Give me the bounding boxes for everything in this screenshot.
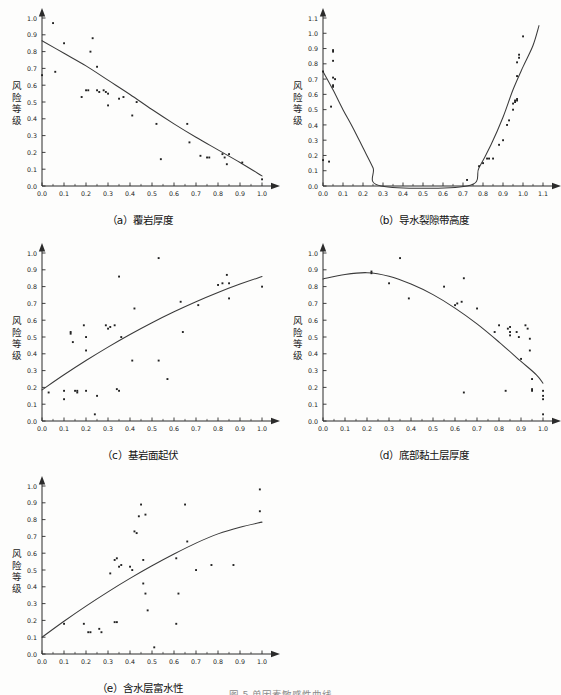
svg-text:1.0: 1.0: [27, 15, 37, 22]
scatter-plot-c: 0.00.10.20.30.40.50.60.70.80.91.00.00.10…: [0, 235, 280, 447]
svg-text:0.2: 0.2: [362, 425, 372, 432]
svg-text:0.3: 0.3: [308, 367, 318, 374]
svg-text:0.7: 0.7: [27, 533, 37, 540]
svg-text:0.2: 0.2: [308, 384, 318, 391]
svg-text:0.7: 0.7: [191, 190, 201, 197]
svg-text:0.4: 0.4: [27, 115, 37, 122]
svg-text:0.1: 0.1: [59, 658, 69, 665]
svg-text:0.7: 0.7: [191, 658, 201, 665]
svg-text:0.1: 0.1: [59, 425, 69, 432]
svg-text:0.4: 0.4: [308, 350, 318, 357]
svg-text:0.0: 0.0: [37, 658, 47, 665]
svg-text:0.5: 0.5: [147, 658, 157, 665]
svg-text:0.4: 0.4: [398, 190, 408, 197]
svg-text:0.9: 0.9: [235, 425, 245, 432]
chart-panel-c: 风 险 等 级 0.00.10.20.30.40.50.60.70.80.91.…: [0, 235, 280, 470]
svg-text:1.0: 1.0: [257, 658, 267, 665]
svg-text:0.1: 0.1: [27, 166, 37, 173]
svg-text:0.7: 0.7: [472, 425, 482, 432]
svg-text:0.3: 0.3: [27, 367, 37, 374]
svg-text:0.4: 0.4: [308, 122, 318, 129]
svg-text:0.9: 0.9: [235, 658, 245, 665]
svg-text:0.8: 0.8: [213, 658, 223, 665]
svg-text:0.6: 0.6: [27, 82, 37, 89]
svg-text:0.5: 0.5: [428, 425, 438, 432]
svg-text:0.5: 0.5: [147, 425, 157, 432]
svg-text:0.6: 0.6: [308, 317, 318, 324]
svg-text:0.4: 0.4: [27, 583, 37, 590]
scatter-plot-a: 0.00.10.20.30.40.50.60.70.80.91.00.00.10…: [0, 0, 280, 212]
svg-text:0.8: 0.8: [213, 190, 223, 197]
scatter-plot-e: 0.00.10.20.30.40.50.60.70.80.91.00.00.10…: [0, 468, 280, 680]
svg-text:1.0: 1.0: [257, 425, 267, 432]
svg-text:0.5: 0.5: [147, 190, 157, 197]
svg-text:0.0: 0.0: [37, 190, 47, 197]
svg-text:0.8: 0.8: [308, 283, 318, 290]
svg-text:0.2: 0.2: [27, 617, 37, 624]
svg-text:0.7: 0.7: [191, 425, 201, 432]
svg-text:0.9: 0.9: [498, 190, 508, 197]
svg-text:1.1: 1.1: [538, 190, 548, 197]
svg-text:1.1: 1.1: [308, 15, 318, 22]
panel-caption-b: （b）导水裂隙带高度: [281, 212, 561, 227]
svg-text:0.0: 0.0: [318, 425, 328, 432]
svg-text:0.6: 0.6: [169, 425, 179, 432]
svg-text:0.8: 0.8: [213, 425, 223, 432]
svg-text:0.1: 0.1: [340, 425, 350, 432]
chart-panel-a: 风 险 等 级 0.00.10.20.30.40.50.60.70.80.91.…: [0, 0, 280, 235]
svg-text:1.0: 1.0: [27, 250, 37, 257]
svg-text:0.0: 0.0: [318, 190, 328, 197]
svg-text:0.3: 0.3: [27, 600, 37, 607]
svg-text:0.8: 0.8: [27, 48, 37, 55]
svg-text:0.5: 0.5: [418, 190, 428, 197]
svg-text:0.8: 0.8: [308, 60, 318, 67]
chart-panel-d: 风 险 等 级 0.00.10.20.30.40.50.60.70.80.91.…: [281, 235, 561, 470]
svg-text:0.8: 0.8: [27, 516, 37, 523]
plot-area-b: 0.00.10.20.30.40.50.60.70.80.91.01.10.00…: [281, 0, 561, 212]
plot-area-e: 0.00.10.20.30.40.50.60.70.80.91.00.00.10…: [0, 468, 280, 680]
svg-text:1.0: 1.0: [257, 190, 267, 197]
plot-area-a: 0.00.10.20.30.40.50.60.70.80.91.00.00.10…: [0, 0, 280, 212]
svg-text:0.4: 0.4: [27, 350, 37, 357]
svg-text:1.0: 1.0: [538, 425, 548, 432]
svg-text:0.1: 0.1: [308, 167, 318, 174]
svg-text:0.4: 0.4: [125, 425, 135, 432]
svg-text:0.3: 0.3: [384, 425, 394, 432]
svg-text:0.2: 0.2: [81, 658, 91, 665]
svg-text:0.0: 0.0: [308, 418, 318, 425]
svg-text:0.8: 0.8: [27, 283, 37, 290]
chart-panel-b: 风 险 等 级 0.00.10.20.30.40.50.60.70.80.91.…: [281, 0, 561, 235]
svg-text:0.7: 0.7: [308, 300, 318, 307]
svg-text:0.9: 0.9: [308, 266, 318, 273]
figure-bottom-caption: 图 5 单因素敏感性曲线: [0, 688, 561, 695]
svg-text:0.6: 0.6: [27, 317, 37, 324]
svg-text:0.3: 0.3: [103, 425, 113, 432]
svg-text:0.3: 0.3: [308, 137, 318, 144]
svg-text:0.9: 0.9: [516, 425, 526, 432]
svg-text:0.3: 0.3: [27, 132, 37, 139]
figure-sheet: 风 险 等 级 0.00.10.20.30.40.50.60.70.80.91.…: [0, 0, 561, 695]
plot-area-d: 0.00.10.20.30.40.50.60.70.80.91.00.00.10…: [281, 235, 561, 447]
svg-text:0.6: 0.6: [169, 658, 179, 665]
svg-text:0.6: 0.6: [450, 425, 460, 432]
svg-text:0.6: 0.6: [308, 91, 318, 98]
svg-text:0.3: 0.3: [103, 658, 113, 665]
scatter-plot-b: 0.00.10.20.30.40.50.60.70.80.91.01.10.00…: [281, 0, 561, 212]
svg-text:0.5: 0.5: [308, 106, 318, 113]
svg-text:1.0: 1.0: [308, 250, 318, 257]
svg-text:0.4: 0.4: [125, 658, 135, 665]
svg-text:0.0: 0.0: [308, 183, 318, 190]
svg-text:1.0: 1.0: [518, 190, 528, 197]
svg-text:0.4: 0.4: [406, 425, 416, 432]
svg-text:0.2: 0.2: [81, 425, 91, 432]
svg-text:0.1: 0.1: [308, 401, 318, 408]
svg-text:0.6: 0.6: [27, 550, 37, 557]
svg-text:0.0: 0.0: [37, 425, 47, 432]
svg-text:0.3: 0.3: [103, 190, 113, 197]
svg-text:0.3: 0.3: [378, 190, 388, 197]
svg-text:0.1: 0.1: [27, 401, 37, 408]
svg-text:0.8: 0.8: [494, 425, 504, 432]
chart-panel-e: 风 险 等 级 0.00.10.20.30.40.50.60.70.80.91.…: [0, 468, 280, 695]
svg-text:0.1: 0.1: [338, 190, 348, 197]
svg-text:0.6: 0.6: [169, 190, 179, 197]
